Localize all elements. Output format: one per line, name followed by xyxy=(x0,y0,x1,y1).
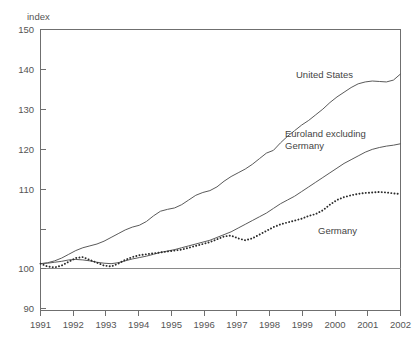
x-label-2002: 2002 xyxy=(390,319,411,330)
x-label-1997: 1997 xyxy=(226,319,247,330)
x-label-1992: 1992 xyxy=(63,319,84,330)
chart-background xyxy=(0,0,415,342)
y-label-100: 100 xyxy=(18,263,34,274)
x-label-1993: 1993 xyxy=(95,319,116,330)
series-label-germany: Germany xyxy=(318,225,357,236)
y-label-120: 120 xyxy=(18,144,34,155)
x-label-2000: 2000 xyxy=(324,319,345,330)
x-label-1991: 1991 xyxy=(30,319,51,330)
x-label-1995: 1995 xyxy=(161,319,182,330)
series-label-euroland-line2: Germany xyxy=(285,140,324,151)
series-label-united-states: United States xyxy=(296,69,353,80)
y-label-140: 140 xyxy=(18,64,34,75)
chart-container: index 150 140 130 120 110 100 90 xyxy=(0,0,415,342)
y-label-90: 90 xyxy=(23,303,34,314)
index-line-chart: index 150 140 130 120 110 100 90 xyxy=(0,0,415,342)
y-label-130: 130 xyxy=(18,104,34,115)
x-label-1996: 1996 xyxy=(194,319,215,330)
y-axis-title: index xyxy=(27,11,50,22)
y-label-110: 110 xyxy=(19,184,34,195)
x-label-1998: 1998 xyxy=(259,319,280,330)
x-label-2001: 2001 xyxy=(357,319,378,330)
series-label-euroland-line1: Euroland excluding xyxy=(285,128,366,139)
y-label-150: 150 xyxy=(18,24,34,35)
x-label-1999: 1999 xyxy=(292,319,313,330)
x-label-1994: 1994 xyxy=(128,319,149,330)
